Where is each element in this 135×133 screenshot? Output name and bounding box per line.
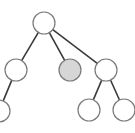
node-group [0,12,135,122]
edge-right-right-left [93,80,101,100]
tree-node-left [5,59,27,81]
edge-root-right [53,30,97,64]
tree-node-right-right [113,99,135,121]
tree-graph [0,0,135,133]
edge-root-left [22,32,39,60]
edge-right-right-right [111,80,120,100]
tree-node-right [95,59,117,81]
tree-diagram [0,0,135,133]
tree-node-left-left [0,100,10,122]
tree-node-right-left [78,99,100,121]
tree-node-root [33,12,55,34]
tree-node-middle [59,59,81,81]
edge-left-left-left [3,80,12,101]
